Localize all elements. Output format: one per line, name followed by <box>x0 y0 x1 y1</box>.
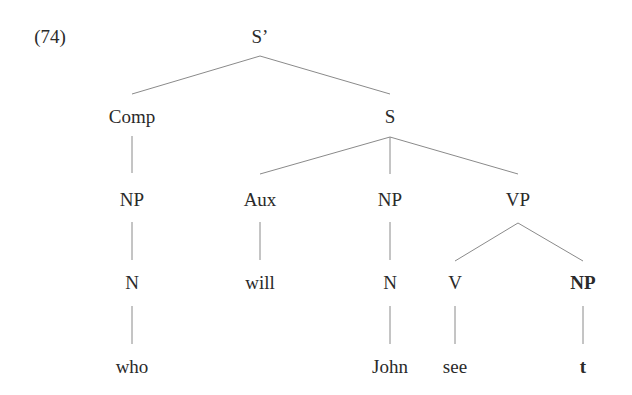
edge-sbar-s <box>260 56 390 94</box>
example-number: (74) <box>34 26 66 48</box>
leaf-see: see <box>443 356 467 378</box>
node-vp-np: NP <box>570 272 595 294</box>
node-s-np: NP <box>378 189 402 211</box>
node-v: V <box>448 272 462 294</box>
tree-edges <box>0 0 632 395</box>
node-s-bar: S’ <box>252 26 269 48</box>
leaf-trace: t <box>580 356 586 378</box>
node-comp: Comp <box>109 106 155 128</box>
node-s-n: N <box>383 272 397 294</box>
edge-s-vp <box>390 137 518 174</box>
edge-vp-np <box>518 223 583 261</box>
edge-vp-v <box>455 223 518 261</box>
node-comp-n: N <box>125 272 139 294</box>
leaf-will: will <box>245 272 275 294</box>
leaf-john: John <box>372 356 408 378</box>
node-vp: VP <box>506 189 530 211</box>
node-aux: Aux <box>244 189 277 211</box>
node-comp-np: NP <box>120 189 144 211</box>
edge-sbar-comp <box>132 56 260 94</box>
edge-s-aux <box>260 137 390 174</box>
node-s: S <box>385 106 396 128</box>
leaf-who: who <box>116 356 149 378</box>
